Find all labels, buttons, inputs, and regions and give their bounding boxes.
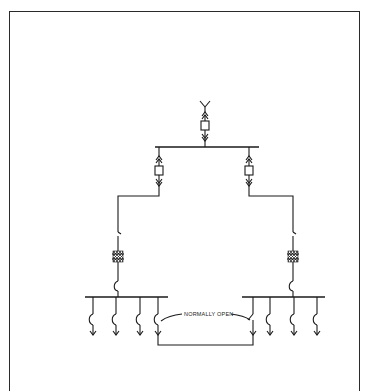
left-feeder-3 xyxy=(136,297,143,335)
switch-icon xyxy=(118,232,121,251)
left-feeder-1 xyxy=(89,297,96,335)
right-feeder-1-tie xyxy=(248,297,256,335)
right-feeder-4 xyxy=(313,297,320,335)
left-branch-breaker-icon xyxy=(118,147,163,232)
breaker-arc-icon xyxy=(289,281,293,291)
left-transformer-branch xyxy=(112,232,124,297)
label-leader-right xyxy=(231,314,250,320)
left-feeder-2 xyxy=(112,297,119,335)
main-breaker-icon xyxy=(201,112,209,147)
left-feeder-4-tie xyxy=(154,297,161,335)
transformer-icon xyxy=(287,251,299,262)
transformer-icon xyxy=(112,251,124,262)
breaker-arc-icon xyxy=(114,281,118,291)
right-branch-breaker-icon xyxy=(245,147,293,232)
label-leader-left xyxy=(161,314,182,321)
right-transformer-branch xyxy=(287,232,299,297)
right-feeder-2 xyxy=(266,297,273,335)
normally-open-label: NORMALLY OPEN xyxy=(184,311,233,317)
switch-icon xyxy=(293,232,296,251)
right-feeder-3 xyxy=(290,297,297,335)
tie-line xyxy=(158,335,253,345)
incoming-source-icon xyxy=(200,101,210,112)
